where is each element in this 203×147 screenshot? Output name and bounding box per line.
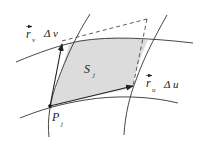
- label-p: P: [51, 110, 60, 124]
- patch-region-s-j: [50, 38, 148, 106]
- surface-patch-diagram: S j P j r v Δ v r u Δ u: [0, 0, 203, 147]
- label-s-subscript: j: [92, 71, 95, 79]
- label-r-u-subscript: u: [152, 86, 156, 94]
- label-r-v-subscript: v: [32, 36, 36, 44]
- label-r-v: r: [26, 27, 31, 41]
- label-r-u: r: [146, 76, 151, 90]
- label-p-subscript: j: [60, 120, 63, 128]
- u-curve-lower: [20, 97, 178, 118]
- point-p-j: [48, 104, 52, 108]
- label-delta-u: Δ u: [163, 78, 179, 90]
- dashed-parallelogram-top: [62, 19, 147, 41]
- label-delta-v: Δ v: [43, 27, 58, 39]
- label-s: S: [84, 62, 90, 76]
